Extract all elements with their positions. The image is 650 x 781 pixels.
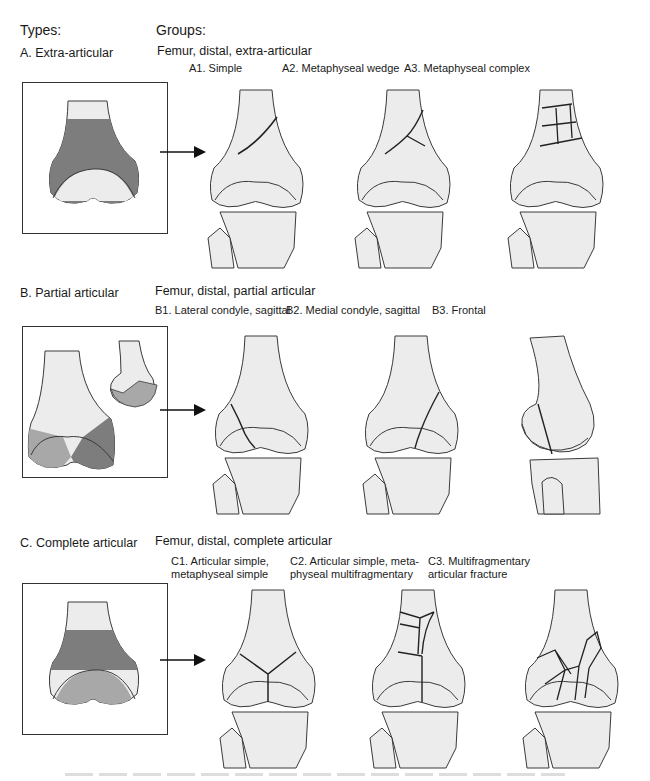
group-c2-label: C2. Articular simple, meta-	[290, 555, 419, 568]
group-b3-label: B3. Frontal	[432, 304, 486, 317]
femur-c1-icon	[212, 588, 322, 778]
types-heading: Types:	[20, 22, 61, 38]
group-c2-label-line2: physeal multifragmentary	[290, 568, 413, 581]
femur-c3-icon	[515, 588, 625, 778]
type-a-label: A. Extra-articular	[20, 46, 113, 60]
figure-caption-cutoff	[65, 770, 565, 778]
figure-c1	[212, 588, 322, 778]
figure-b2	[355, 334, 465, 524]
type-b-illustration-frame	[22, 326, 168, 478]
arrow-right-icon	[160, 653, 208, 667]
femur-type-c-icon	[23, 584, 167, 734]
figure-c3	[515, 588, 625, 778]
groups-heading: Groups:	[156, 22, 206, 38]
femur-a1-icon	[200, 88, 310, 278]
type-c-label: C. Complete articular	[20, 536, 137, 550]
group-c3-label-line2: articular fracture	[428, 568, 507, 581]
femur-a2-icon	[347, 88, 457, 278]
group-a2-label: A2. Metaphyseal wedge	[282, 62, 399, 75]
group-b1-label: B1. Lateral condyle, sagittal	[155, 304, 290, 317]
group-a3-label: A3. Metaphyseal complex	[404, 62, 530, 75]
group-c3-label: C3. Multifragmentary	[428, 555, 530, 568]
femur-type-b-icon	[23, 327, 167, 477]
figure-a3	[500, 88, 610, 278]
group-c-title: Femur, distal, complete articular	[155, 534, 332, 548]
figure-a2	[347, 88, 457, 278]
femur-a3-icon	[500, 88, 610, 278]
figure-b3	[520, 334, 630, 524]
group-c1-label-line2: metaphyseal simple	[171, 568, 268, 581]
group-b2-label: B2. Medial condyle, sagittal	[286, 304, 420, 317]
femur-b3-lateral-icon	[520, 334, 630, 524]
group-b-title: Femur, distal, partial articular	[155, 284, 315, 298]
type-c-illustration-frame	[22, 583, 168, 735]
figure-c2	[362, 588, 472, 778]
group-a1-label: A1. Simple	[189, 62, 242, 75]
femur-b2-icon	[355, 334, 465, 524]
figure-b1	[205, 334, 315, 524]
type-b-label: B. Partial articular	[20, 286, 119, 300]
femur-type-a-icon	[23, 83, 167, 233]
type-a-illustration-frame	[22, 82, 168, 234]
group-c1-label: C1. Articular simple,	[171, 555, 269, 568]
figure-a1	[200, 88, 310, 278]
femur-b1-icon	[205, 334, 315, 524]
arrow-right-icon	[160, 403, 208, 417]
group-a-title: Femur, distal, extra-articular	[157, 44, 312, 58]
femur-c2-icon	[362, 588, 472, 778]
